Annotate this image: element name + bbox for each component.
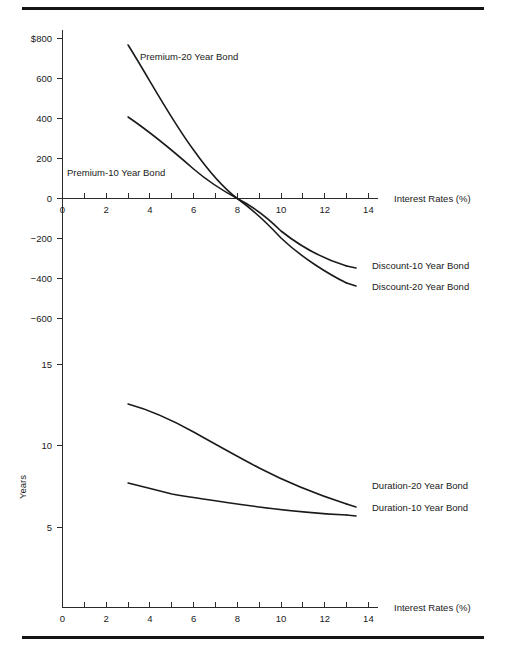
duration-xtick-4: 4 (147, 613, 152, 624)
label-duration-20-year-bond: Duration-20 Year Bond (372, 480, 468, 491)
curve-duration-20-year-bond (128, 404, 347, 504)
duration-xtick-6: 6 (191, 613, 196, 624)
duration-x-axis-title: Interest Rates (%) (394, 602, 471, 613)
duration-y-axis-title: Years (17, 475, 28, 499)
duration-xtick-0: 0 (60, 613, 65, 624)
duration-xtick-14: 14 (363, 613, 374, 624)
curve-duration-10-year-bond (128, 483, 347, 515)
figure-canvas: $800 600 400 200 0 −200 −400 −600 0 2 (0, 0, 506, 661)
duration-xtick-2: 2 (104, 613, 109, 624)
duration-x-ticks (63, 602, 369, 608)
duration-xtick-10: 10 (276, 613, 287, 624)
duration-y-ticks (57, 365, 63, 528)
leader-duration-10 (347, 515, 356, 516)
duration-ytick-15: 15 (41, 359, 52, 370)
leader-duration-20 (347, 504, 356, 507)
duration-ytick-10: 10 (41, 440, 52, 451)
duration-ytick-5: 5 (47, 522, 52, 533)
duration-xtick-8: 8 (235, 613, 240, 624)
bond-duration-chart: 15 10 5 Years 0 2 4 6 8 10 12 (0, 0, 506, 661)
duration-xtick-12: 12 (319, 613, 330, 624)
label-duration-10-year-bond: Duration-10 Year Bond (372, 502, 468, 513)
